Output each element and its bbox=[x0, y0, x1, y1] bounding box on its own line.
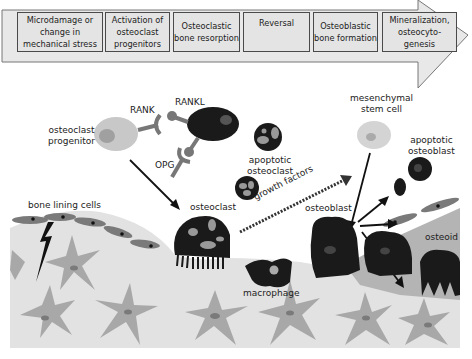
apoptotic-osteoclast-label: apoptoticosteoclast bbox=[247, 155, 293, 177]
opg-label: OPG bbox=[155, 160, 175, 171]
stage-mineralization: Mineralization, osteocyto-genesis bbox=[382, 12, 457, 52]
apoptotic-osteoblast-label: apoptoticosteoblast bbox=[408, 135, 455, 157]
apoptotic-osteoblast-cell bbox=[394, 178, 406, 196]
rankl-cell bbox=[187, 107, 239, 141]
osteoclast-progenitor-label: osteoclastprogenitor bbox=[48, 125, 95, 147]
stage-reversal: Reversal bbox=[243, 12, 310, 52]
rank-label: RANK bbox=[130, 105, 155, 116]
osteoblast-label: osteoblast bbox=[305, 203, 352, 214]
osteoid-label: osteoid bbox=[425, 232, 458, 243]
rankl-label: RANKL bbox=[175, 97, 205, 108]
stage-resorption: Osteoclastic bone resorption bbox=[173, 12, 240, 52]
bone-lining-cells-label: bone lining cells bbox=[28, 200, 101, 211]
stage-microdamage: Microdamage or change in mechanical stre… bbox=[17, 12, 103, 52]
stage-activation: Activation of osteoclast progenitors bbox=[105, 12, 170, 52]
osteoclast-label: osteoclast bbox=[190, 202, 236, 213]
stage-formation: Osteoblastic bone formation bbox=[313, 12, 378, 52]
bone-remodeling-diagram bbox=[0, 0, 472, 359]
mesenchymal-stem-cell-label: mesenchymalstem cell bbox=[350, 93, 413, 115]
macrophage-label: macrophage bbox=[243, 288, 299, 299]
rank-receptor-icon bbox=[156, 115, 160, 134]
